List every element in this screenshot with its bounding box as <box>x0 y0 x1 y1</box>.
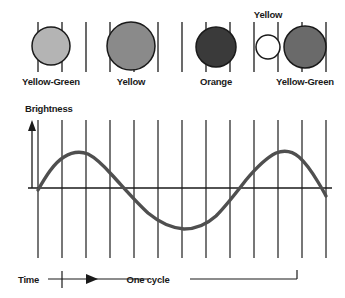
star-label-orange: Orange <box>200 76 232 87</box>
star-circle-yellow-green-1 <box>32 27 70 65</box>
star-circle-orange <box>196 27 236 67</box>
star-label-yellow-green-2: Yellow-Green <box>276 76 334 87</box>
time-direction-arrow-icon <box>86 274 98 284</box>
star-swatch-row: Yellow-Green Yellow Orange Yellow Yellow… <box>22 9 334 87</box>
star-circle-yellow-large <box>107 22 155 70</box>
brightness-arrow-icon <box>28 120 36 188</box>
brightness-cycle-figure: Yellow-Green Yellow Orange Yellow Yellow… <box>0 0 345 298</box>
star-label-yellow-small: Yellow <box>254 9 283 20</box>
star-label-yellow-large: Yellow <box>117 76 146 87</box>
swatch-tick-lines <box>38 22 326 72</box>
one-cycle-label: One cycle <box>126 274 169 285</box>
brightness-axis-label: Brightness <box>25 103 73 114</box>
star-label-yellow-green-1: Yellow-Green <box>22 76 80 87</box>
chart-gridlines <box>38 120 326 258</box>
time-axis-label: Time <box>18 274 39 285</box>
star-circle-yellow-green-2 <box>284 26 326 68</box>
time-axis-annotation: Time One cycle <box>18 270 297 288</box>
star-circle-yellow-small <box>256 35 280 59</box>
